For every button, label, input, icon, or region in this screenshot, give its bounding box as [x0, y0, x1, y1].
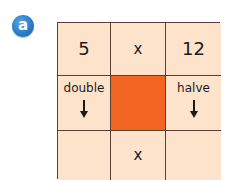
down-arrow-icon [189, 100, 199, 118]
cell-top-middle: x [111, 23, 166, 76]
number-value: 12 [182, 40, 205, 58]
number-value: 5 [78, 40, 89, 58]
cell-bottom-right-answer [166, 131, 221, 180]
question-label: a [18, 18, 28, 33]
multiply-sign: x [134, 42, 143, 57]
cell-bottom-left-answer [58, 131, 111, 180]
cell-middle-right: halve [166, 76, 221, 131]
cell-top-left: 5 [58, 23, 111, 76]
cell-middle-left: double [58, 76, 111, 131]
instruction-halve: halve [177, 82, 210, 94]
multiply-sign: x [134, 148, 143, 163]
multiplication-grid: 5 x 12 double halve x [57, 22, 220, 179]
cell-center-highlight [111, 76, 166, 131]
question-label-badge: a [12, 15, 34, 37]
cell-top-right: 12 [166, 23, 221, 76]
cell-bottom-middle: x [111, 131, 166, 180]
down-arrow-icon [79, 100, 89, 118]
instruction-double: double [64, 82, 105, 94]
